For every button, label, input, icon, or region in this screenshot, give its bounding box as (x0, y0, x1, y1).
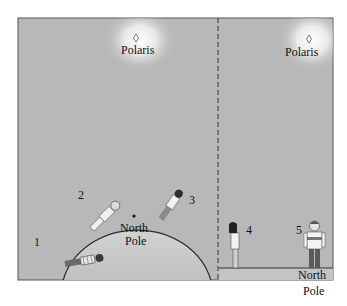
polaris-label-right: Polaris (285, 46, 318, 58)
figure-2-label: 2 (78, 189, 84, 201)
polaris-diagram: Polaris Polaris North Pole North Pole 1 … (0, 0, 347, 306)
figure-3-label: 3 (189, 194, 195, 206)
figure-4-label: 4 (246, 224, 252, 236)
north-pole-label-line1-left: North (120, 222, 148, 234)
polaris-label-left: Polaris (121, 44, 154, 56)
north-pole-label-line1-right: North (298, 269, 326, 281)
figure-1-label: 1 (34, 236, 40, 248)
figure-5-label: 5 (296, 224, 302, 236)
north-pole-label-line2-right: Pole (303, 285, 324, 297)
north-pole-label-line2-left: Pole (125, 235, 146, 247)
north-pole-dot (132, 214, 135, 217)
